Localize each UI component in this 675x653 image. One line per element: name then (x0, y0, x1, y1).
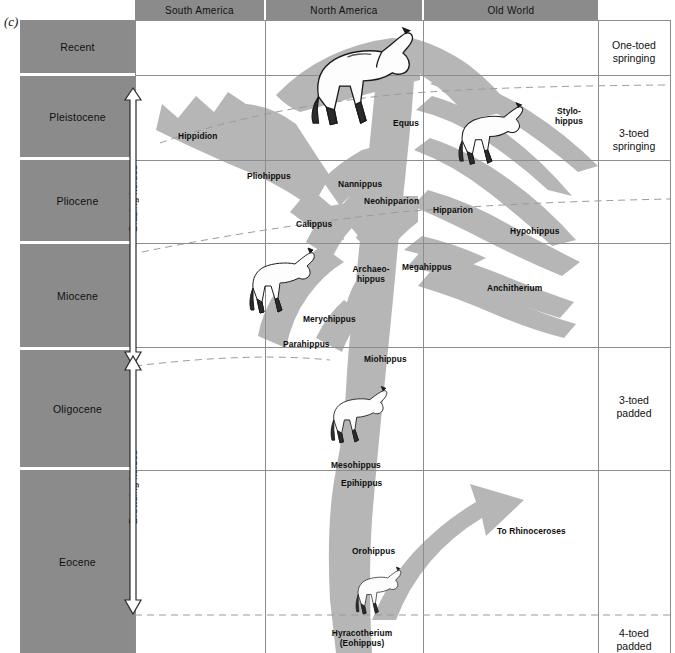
foot-label-four-toed-padded: 4-toed padded (598, 627, 670, 653)
taxon-hipparion: Hipparion (433, 205, 473, 215)
taxon-megahippus: Megahippus (402, 262, 452, 272)
taxon-anchitherium: Anchitherium (487, 283, 542, 293)
taxon-epihippus: Epihippus (341, 478, 382, 488)
taxon-equus: Equus (393, 118, 419, 128)
taxon-orohippus: Orohippus (352, 546, 395, 556)
foot-label-one-toed-springing-text: One-toed springing (612, 39, 656, 64)
phylogenetic-tree-shapes (0, 0, 675, 653)
foot-label-three-toed-padded: 3-toed padded (598, 394, 670, 420)
taxon-hippidion: Hippidion (178, 131, 218, 141)
foot-label-three-toed-springing-text: 3-toed springing (613, 127, 656, 152)
foot-label-three-toed-padded-text: 3-toed padded (616, 394, 651, 419)
taxon-merychippus: Merychippus (303, 314, 356, 324)
foot-label-four-toed-padded-text: 4-toed padded (616, 627, 651, 652)
taxon-hypohippus: Hypohippus (510, 226, 559, 236)
horse-evolution-figure: (c) Recent Pleistocene Pliocene Miocene … (0, 0, 675, 653)
foot-label-three-toed-springing: 3-toed springing (598, 127, 670, 153)
foot-label-one-toed-springing: One-toed springing (598, 39, 670, 65)
taxon-neohipparion: Neohipparion (364, 196, 419, 206)
taxon-calippus: Calippus (296, 219, 332, 229)
taxon-archaeohippus: Archaeo- hippus (348, 264, 394, 284)
taxon-hyracotherium: Hyracotherium (Eohippus) (317, 628, 407, 648)
taxon-miohippus: Miohippus (364, 354, 407, 364)
taxon-parahippus: Parahippus (283, 339, 330, 349)
branch-to-rhinoceroses: To Rhinoceroses (497, 526, 566, 536)
taxon-stylohippus: Stylo- hippus (546, 106, 592, 126)
taxon-nannippus: Nannippus (338, 179, 382, 189)
taxon-pliohippus: Pliohippus (247, 171, 291, 181)
taxon-mesohippus: Mesohippus (331, 460, 381, 470)
